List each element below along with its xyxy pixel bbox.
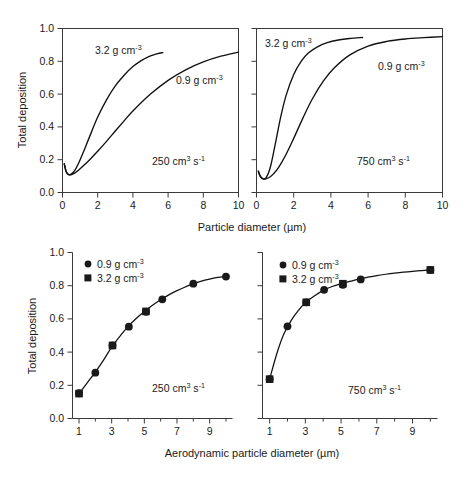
flowrate-value: 250	[152, 382, 170, 394]
series-label-sup: -3	[418, 59, 424, 68]
flowrate-unit-base: cm	[366, 384, 383, 396]
data-point-circle	[357, 275, 365, 283]
data-point-square	[75, 390, 83, 398]
fit-curve-bottom-right	[270, 270, 431, 379]
series-label-value: 3.2	[95, 44, 110, 56]
plot-frame-top-left	[63, 29, 239, 193]
svg-text:750 cm3 s-1: 750 cm3 s-1	[348, 383, 401, 396]
data-point-circle	[125, 323, 133, 331]
x-tick-label: 1	[267, 425, 273, 437]
x-tick-label: 9	[207, 425, 213, 437]
series-label-unit: g cm	[191, 74, 217, 86]
curve-density-3-2-top-left	[64, 53, 163, 175]
x-tick-label: 6	[365, 199, 371, 211]
y-axis-title-bottom-left: Total deposition	[26, 298, 38, 374]
series-label-sup: -3	[305, 36, 311, 45]
data-point-circle	[158, 295, 166, 303]
x-axis-ticks-bottom-left	[79, 419, 226, 424]
x-tick-label: 6	[165, 199, 171, 211]
x-tick-label: 10	[233, 199, 245, 211]
y-axis-ticks-top-right	[252, 29, 257, 193]
svg-text:0.9 g cm-3: 0.9 g cm-3	[176, 73, 223, 86]
x-axis-tick-labels-top-left: 0 2 4 6 8 10	[60, 199, 245, 211]
y-tick-label: 0.8	[49, 279, 64, 291]
series-label-unit: g cm	[393, 60, 419, 72]
series-label-3-2-top-right: 3.2 g cm-3	[265, 36, 312, 49]
flowrate-annotation-bottom-right: 750 cm3 s-1	[348, 383, 401, 396]
legend-circle-marker	[280, 262, 287, 269]
x-tick-label: 8	[402, 199, 408, 211]
legend-value: 3.2	[97, 272, 112, 284]
flowrate-value: 250	[152, 155, 170, 167]
series-label-0-9-top-left: 0.9 g cm-3	[176, 73, 223, 86]
flowrate-annotation-top-left: 250 cm3 s-1	[152, 154, 205, 167]
data-point-circle	[222, 273, 230, 281]
x-axis-ticks-top-right	[257, 193, 443, 198]
legend-value: 0.9	[292, 259, 307, 271]
x-tick-label: 7	[174, 425, 180, 437]
data-point-square	[266, 375, 274, 383]
x-axis-ticks-bottom-right	[270, 419, 431, 424]
legend-value: 3.2	[292, 273, 307, 285]
x-tick-label: 10	[437, 199, 449, 211]
fit-curve-bottom-left	[79, 276, 226, 394]
flowrate-unit-mid: s	[190, 155, 198, 167]
legend-value: 0.9	[97, 258, 112, 270]
y-tick-label: 0.4	[39, 120, 54, 132]
flowrate-unit-sup2: -1	[395, 383, 401, 392]
x-tick-label: 9	[409, 425, 415, 437]
y-axis-tick-labels-top-left: 0.0 0.2 0.4 0.6 0.8 1.0	[39, 22, 54, 198]
x-axis-tick-labels-bottom-left: 1 3 5 7 9	[76, 425, 213, 437]
y-tick-label: 0.0	[39, 186, 54, 198]
y-tick-label: 0.6	[49, 312, 64, 324]
data-point-circle	[320, 286, 328, 294]
x-tick-label: 0	[60, 199, 66, 211]
y-tick-label: 0.4	[49, 346, 64, 358]
series-label-unit: g cm	[110, 44, 136, 56]
curve-density-0-9-top-right	[258, 37, 442, 179]
y-tick-label: 0.6	[39, 88, 54, 100]
svg-text:750 cm3 s-1: 750 cm3 s-1	[357, 154, 410, 167]
y-tick-label: 0.8	[39, 55, 54, 67]
x-tick-label: 2	[291, 199, 297, 211]
panel-bottom-right: 1 3 5 7 9 0.9 g cm-3 3.2 g cm-3	[258, 253, 438, 438]
series-label-value: 0.9	[378, 60, 393, 72]
y-axis-ticks-bottom-left	[68, 253, 73, 419]
svg-text:0.9 g cm-3: 0.9 g cm-3	[292, 258, 339, 271]
x-tick-label: 2	[95, 199, 101, 211]
data-point-circle	[189, 280, 197, 288]
figure-svg: 0.0 0.2 0.4 0.6 0.8 1.0 0 2 4 6	[0, 0, 464, 481]
flowrate-unit-base: cm	[170, 155, 187, 167]
svg-text:250 cm3 s-1: 250 cm3 s-1	[152, 154, 205, 167]
x-axis-title-top: Particle diameter (µm)	[198, 221, 306, 233]
series-label-unit: g cm	[280, 37, 306, 49]
data-points-bottom-left	[75, 273, 230, 398]
x-axis-title-bottom: Aerodynamic particle diameter (µm)	[165, 447, 339, 459]
flowrate-unit-base: cm	[375, 155, 392, 167]
legend-sup: -3	[137, 271, 143, 280]
series-label-sup: -3	[216, 73, 222, 82]
x-axis-ticks-top-left	[63, 193, 239, 198]
x-tick-label: 3	[302, 425, 308, 437]
legend-unit: g cm	[307, 259, 333, 271]
svg-text:3.2 g cm-3: 3.2 g cm-3	[97, 271, 144, 284]
svg-text:3.2 g cm-3: 3.2 g cm-3	[265, 36, 312, 49]
data-point-square	[109, 342, 117, 350]
data-point-square	[339, 280, 347, 288]
data-point-square	[302, 299, 310, 307]
y-axis-title-top-left: Total deposition	[16, 72, 28, 148]
flowrate-annotation-top-right: 750 cm3 s-1	[357, 154, 410, 167]
panel-top-left: 0.0 0.2 0.4 0.6 0.8 1.0 0 2 4 6	[16, 22, 244, 211]
x-tick-label: 0	[254, 199, 260, 211]
series-label-value: 3.2	[265, 37, 280, 49]
y-axis-ticks-top-left	[58, 29, 63, 193]
flowrate-value: 750	[348, 384, 366, 396]
y-tick-label: 1.0	[39, 22, 54, 34]
y-tick-label: 1.0	[49, 246, 64, 258]
y-tick-label: 0.2	[49, 379, 64, 391]
legend-bottom-left: 0.9 g cm-3 3.2 g cm-3	[84, 257, 143, 284]
y-tick-label: 0.0	[49, 412, 64, 424]
x-axis-tick-labels-top-right: 0 2 4 6 8 10	[254, 199, 449, 211]
panel-top-right: 0 2 4 6 8 10 3.2 g cm-3 0.9 g cm-3	[252, 29, 449, 212]
legend-sup: -3	[332, 272, 338, 281]
